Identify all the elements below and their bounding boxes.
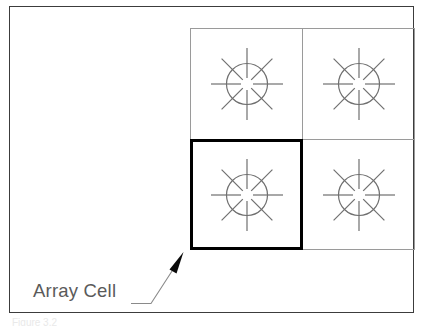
array-grid [190, 28, 415, 250]
starburst-circle-icon [322, 158, 396, 232]
figure-border: Array Cell [9, 6, 414, 313]
array-cell-r1c1[interactable] [302, 139, 415, 250]
array-cell-r1c0-highlighted[interactable] [190, 139, 303, 250]
array-cell-r0c0[interactable] [190, 28, 303, 140]
starburst-circle-icon [322, 47, 396, 121]
starburst-circle-icon [210, 158, 284, 232]
starburst-circle-icon [210, 47, 284, 121]
annotation-leader-arrow [122, 245, 194, 309]
array-cell-r0c1[interactable] [302, 28, 415, 140]
bottom-caption-fragment: Figure 3.2 [12, 317, 57, 326]
array-cell-label: Array Cell [33, 279, 116, 303]
figure-canvas: Array Cell Figure 3.2 [0, 0, 424, 326]
